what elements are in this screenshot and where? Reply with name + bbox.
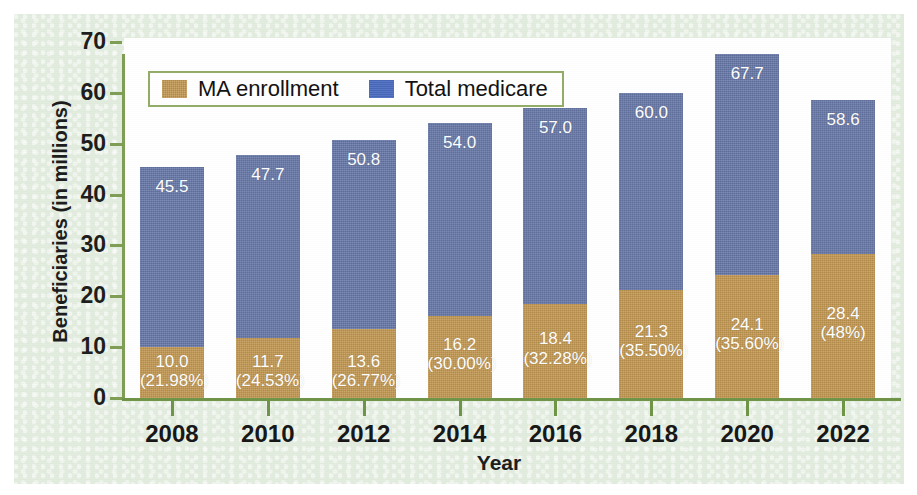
y-axis-tick-label-text: 0 (60, 386, 106, 409)
bar-value-percent: (32.28%) (523, 349, 587, 368)
legend-label-ma-enrollment: MA enrollment (198, 76, 339, 102)
chart-figure-panel: 010203040506070 Beneficiaries (in millio… (14, 14, 904, 484)
x-axis-tick (171, 401, 174, 416)
y-axis-tick (110, 346, 122, 349)
bar-segment-ma-enrollment[interactable]: 18.4(32.28%) (523, 304, 587, 398)
bar-value-label-ma-enrollment: 11.7(24.53%) (236, 352, 300, 391)
bar-segment-ma-enrollment[interactable]: 28.4(48%) (811, 254, 875, 398)
y-axis-tick (110, 143, 122, 146)
bar-value-label-ma-enrollment: 24.1(35.60%) (715, 315, 779, 354)
bar-value-number: 21.3 (619, 322, 683, 341)
chart-screenshot: 010203040506070 Beneficiaries (in millio… (0, 0, 917, 495)
y-axis-tick (110, 41, 122, 44)
y-axis-tick (110, 92, 122, 95)
y-axis-tick-label-text: 70 (60, 30, 106, 53)
bar-stack-2010[interactable]: 47.711.7(24.53%) (236, 155, 300, 398)
x-axis-title: Year (14, 451, 904, 475)
bar-value-percent: (24.53%) (236, 371, 300, 390)
blue-swatch-icon (369, 80, 394, 98)
bar-segment-total-medicare[interactable]: 58.6 (811, 100, 875, 254)
legend-label-total-medicare: Total medicare (405, 76, 548, 102)
bar-segment-ma-enrollment[interactable]: 16.2(30.00%) (428, 316, 492, 398)
x-axis-tick-label: 2022 (788, 420, 898, 448)
y-axis-tick (110, 397, 122, 400)
bar-value-percent: (48%) (811, 323, 875, 342)
bar-value-number: 24.1 (715, 315, 779, 334)
x-axis-tick-label: 2020 (692, 420, 802, 448)
x-axis-tick (459, 401, 462, 416)
x-axis-tick-label: 2018 (596, 420, 706, 448)
legend-item-ma-enrollment: MA enrollment (162, 76, 339, 102)
bar-value-label-ma-enrollment: 18.4(32.28%) (523, 329, 587, 368)
y-axis-tick (110, 244, 122, 247)
bar-segment-total-medicare[interactable]: 60.0 (619, 93, 683, 290)
y-axis-line (122, 54, 125, 400)
bar-stack-2012[interactable]: 50.813.6(26.77%) (332, 140, 396, 398)
bar-segment-total-medicare[interactable]: 45.5 (140, 167, 204, 348)
bar-segment-total-medicare[interactable]: 47.7 (236, 155, 300, 338)
bar-value-label-total-medicare: 47.7 (236, 165, 300, 184)
bar-segment-total-medicare[interactable]: 57.0 (523, 108, 587, 304)
bar-value-number: 10.0 (140, 352, 204, 371)
x-axis-line (122, 398, 901, 401)
bar-stack-2008[interactable]: 45.510.0(21.98%) (140, 167, 204, 398)
bar-value-label-ma-enrollment: 28.4(48%) (811, 304, 875, 343)
x-axis-tick (267, 401, 270, 416)
bar-value-number: 16.2 (428, 335, 492, 354)
x-axis-tick-label: 2016 (500, 420, 610, 448)
bar-value-percent: (30.00%) (428, 354, 492, 373)
bar-stack-2018[interactable]: 60.021.3(35.50%) (619, 93, 683, 398)
bar-value-label-ma-enrollment: 21.3(35.50%) (619, 322, 683, 361)
bar-stack-2014[interactable]: 54.016.2(30.00%) (428, 123, 492, 398)
bar-value-number: 28.4 (811, 304, 875, 323)
bar-value-percent: (21.98%) (140, 371, 204, 390)
bar-value-percent: (35.50%) (619, 341, 683, 360)
bar-segment-ma-enrollment[interactable]: 13.6(26.77%) (332, 329, 396, 398)
bar-value-label-ma-enrollment: 13.6(26.77%) (332, 352, 396, 391)
x-axis-tick-label: 2012 (309, 420, 419, 448)
bar-value-label-total-medicare: 50.8 (332, 150, 396, 169)
bar-value-percent: (35.60%) (715, 334, 779, 353)
bar-value-label-total-medicare: 67.7 (715, 64, 779, 83)
y-axis-tick-label: 0 (54, 386, 106, 410)
bar-segment-ma-enrollment[interactable]: 10.0(21.98%) (140, 347, 204, 398)
x-axis-tick-label: 2008 (117, 420, 227, 448)
bar-value-label-total-medicare: 60.0 (619, 103, 683, 122)
bar-segment-ma-enrollment[interactable]: 24.1(35.60%) (715, 275, 779, 398)
x-axis-tick (746, 401, 749, 416)
x-axis-tick (363, 401, 366, 416)
bar-stack-2016[interactable]: 57.018.4(32.28%) (523, 108, 587, 398)
bar-value-label-total-medicare: 54.0 (428, 133, 492, 152)
y-axis-tick-label: 70 (54, 30, 106, 54)
bar-value-number: 13.6 (332, 352, 396, 371)
y-axis-title: Beneficiaries (in millions) (49, 72, 72, 372)
bar-value-number: 18.4 (523, 329, 587, 348)
bar-segment-total-medicare[interactable]: 67.7 (715, 54, 779, 276)
bar-segment-ma-enrollment[interactable]: 21.3(35.50%) (619, 290, 683, 398)
x-axis-tick (650, 401, 653, 416)
bar-value-label-total-medicare: 57.0 (523, 118, 587, 137)
bar-value-label-total-medicare: 45.5 (140, 177, 204, 196)
x-axis-tick (842, 401, 845, 416)
y-axis-tick (110, 194, 122, 197)
bar-stack-2022[interactable]: 58.628.4(48%) (811, 100, 875, 398)
x-axis-title-text: Year (477, 451, 521, 474)
tan-swatch-icon (162, 80, 187, 98)
bar-value-percent: (26.77%) (332, 371, 396, 390)
x-axis-tick-label: 2014 (405, 420, 515, 448)
x-axis-tick-label: 2010 (213, 420, 323, 448)
bar-stack-2020[interactable]: 67.724.1(35.60%) (715, 54, 779, 398)
bar-value-label-ma-enrollment: 16.2(30.00%) (428, 335, 492, 374)
bar-segment-total-medicare[interactable]: 54.0 (428, 123, 492, 315)
chart-legend: MA enrollment Total medicare (148, 71, 564, 107)
bar-segment-total-medicare[interactable]: 50.8 (332, 140, 396, 329)
y-axis-tick (110, 295, 122, 298)
bar-value-label-total-medicare: 58.6 (811, 110, 875, 129)
bar-value-number: 11.7 (236, 352, 300, 371)
x-axis-tick (554, 401, 557, 416)
bar-segment-ma-enrollment[interactable]: 11.7(24.53%) (236, 338, 300, 398)
legend-item-total-medicare: Total medicare (369, 76, 548, 102)
bar-value-label-ma-enrollment: 10.0(21.98%) (140, 352, 204, 391)
